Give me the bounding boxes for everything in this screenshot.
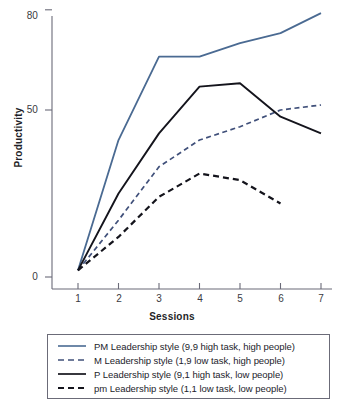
legend-label-p: P Leadership style (9,1 high task, low p…	[94, 369, 283, 380]
x-tick-label-7: 7	[311, 293, 331, 304]
leadership-productivity-chart: 80 50 0 1 2 3 4 5 6 7 Productivity Sessi…	[0, 0, 344, 409]
series-line-PM	[78, 13, 321, 270]
legend-label-pm-low: pm Leadership style (1,1 low task, low p…	[94, 383, 287, 394]
x-tick-label-3: 3	[149, 293, 169, 304]
legend-entry-p: P Leadership style (9,1 high task, low p…	[57, 367, 329, 381]
series-line-P	[78, 83, 321, 270]
legend-line-sample-dashed-black	[57, 382, 87, 394]
legend-entry-pm-high: PM Leadership style (9,9 high task, high…	[57, 339, 329, 353]
series-line-pm	[78, 173, 281, 270]
x-tick-label-4: 4	[190, 293, 210, 304]
plot-svg	[0, 0, 344, 310]
y-tick-label-80: 80	[8, 10, 38, 21]
plot-area: 80 50 0 1 2 3 4 5 6 7 Productivity	[0, 0, 344, 310]
tick-marks	[45, 10, 321, 289]
series-lines	[78, 13, 321, 270]
legend-entry-pm-low: pm Leadership style (1,1 low task, low p…	[57, 381, 329, 395]
legend-line-sample-solid-black	[57, 368, 87, 380]
x-tick-label-6: 6	[271, 293, 291, 304]
y-tick-label-0: 0	[8, 271, 38, 282]
y-axis-title: Productivity	[13, 98, 24, 178]
x-tick-label-2: 2	[109, 293, 129, 304]
legend-entry-m: M Leadership style (1,9 low task, high p…	[57, 353, 329, 367]
legend-line-sample-solid-blue	[57, 340, 87, 352]
x-axis-title: Sessions	[0, 311, 344, 322]
legend-label-pm: PM Leadership style (9,9 high task, high…	[94, 341, 295, 352]
legend: PM Leadership style (9,9 high task, high…	[47, 334, 330, 399]
series-line-M	[78, 105, 321, 270]
x-tick-label-5: 5	[230, 293, 250, 304]
legend-label-m: M Leadership style (1,9 low task, high p…	[94, 355, 285, 366]
legend-line-sample-dashed-blue	[57, 354, 87, 366]
x-tick-label-1: 1	[68, 293, 88, 304]
